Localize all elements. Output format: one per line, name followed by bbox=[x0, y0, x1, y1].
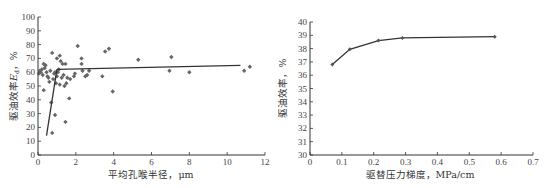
scatter-points bbox=[37, 44, 252, 135]
x-axis-label: 驱替压力梯度，MPa/cm bbox=[366, 169, 475, 180]
y-tick-label: 20 bbox=[26, 122, 36, 132]
y-tick-label: 0 bbox=[31, 150, 36, 160]
line-markers bbox=[330, 35, 496, 67]
data-point-diamond bbox=[103, 49, 107, 53]
data-point-diamond bbox=[41, 88, 45, 92]
y-tick-label: 30 bbox=[26, 109, 36, 119]
y-axis-label: 驱油效率，% bbox=[277, 58, 288, 117]
data-point-diamond bbox=[79, 56, 83, 60]
data-point-diamond bbox=[79, 62, 83, 66]
data-point-diamond bbox=[53, 113, 57, 117]
right-axis-ticks: 303132333435363738394000.10.20.30.40.50.… bbox=[298, 17, 539, 167]
y-tick-label: 90 bbox=[26, 26, 36, 36]
line-marker bbox=[348, 47, 352, 51]
data-point-diamond bbox=[100, 74, 104, 78]
x-tick-label: 0.5 bbox=[464, 157, 476, 167]
y-tick-label: 33 bbox=[298, 110, 308, 120]
y-tick-label: 100 bbox=[22, 12, 36, 22]
y-tick-label: 37 bbox=[298, 57, 308, 67]
y-tick-label: 40 bbox=[298, 17, 308, 27]
data-point-diamond bbox=[58, 53, 62, 57]
line-marker bbox=[493, 35, 497, 39]
data-point-diamond bbox=[169, 55, 173, 59]
y-axis-label: 驱油效率Ed，% bbox=[8, 51, 20, 121]
x-tick-label: 0 bbox=[36, 157, 41, 167]
data-point-diamond bbox=[187, 70, 191, 74]
data-point-diamond bbox=[242, 69, 246, 73]
x-tick-label: 0.7 bbox=[527, 157, 539, 167]
y-tick-label: 10 bbox=[26, 136, 36, 146]
line-marker bbox=[330, 63, 334, 67]
data-point-diamond bbox=[48, 69, 52, 73]
data-point-diamond bbox=[44, 70, 48, 74]
y-tick-label: 39 bbox=[298, 30, 308, 40]
line-marker bbox=[376, 39, 380, 43]
data-point-diamond bbox=[55, 56, 59, 60]
y-tick-label: 35 bbox=[298, 84, 308, 94]
data-point-diamond bbox=[107, 47, 111, 51]
data-point-diamond bbox=[63, 62, 67, 66]
data-point-diamond bbox=[63, 120, 67, 124]
x-tick-label: 4 bbox=[111, 157, 116, 167]
data-point-diamond bbox=[58, 82, 62, 86]
trend-line bbox=[57, 65, 240, 69]
data-point-diamond bbox=[136, 58, 140, 62]
y-tick-label: 36 bbox=[298, 70, 308, 80]
x-tick-label: 0.2 bbox=[368, 157, 379, 167]
x-tick-label: 0.3 bbox=[400, 157, 412, 167]
x-tick-label: 12 bbox=[261, 157, 270, 167]
efficiency-line bbox=[332, 37, 494, 65]
data-point-diamond bbox=[50, 131, 54, 135]
y-tick-label: 38 bbox=[298, 44, 308, 54]
data-point-diamond bbox=[47, 80, 51, 84]
x-tick-label: 10 bbox=[223, 157, 233, 167]
y-tick-label: 60 bbox=[26, 67, 36, 77]
y-tick-label: 31 bbox=[298, 137, 307, 147]
y-tick-label: 34 bbox=[298, 97, 308, 107]
y-tick-label: 70 bbox=[26, 53, 36, 63]
data-point-diamond bbox=[76, 44, 80, 48]
y-tick-label: 50 bbox=[26, 81, 36, 91]
x-tick-label: 0.6 bbox=[496, 157, 508, 167]
y-tick-label: 80 bbox=[26, 40, 36, 50]
data-point-diamond bbox=[67, 96, 71, 100]
data-point-diamond bbox=[50, 51, 54, 55]
y-tick-label: 32 bbox=[298, 123, 307, 133]
x-tick-label: 0.4 bbox=[432, 157, 444, 167]
x-tick-label: 2 bbox=[74, 157, 79, 167]
line-marker bbox=[400, 36, 404, 40]
x-tick-label: 0.1 bbox=[336, 157, 347, 167]
data-point-diamond bbox=[167, 69, 171, 73]
y-tick-label: 30 bbox=[298, 150, 308, 160]
x-axis-label: 平均孔喉半径，μm bbox=[108, 169, 193, 180]
x-tick-label: 6 bbox=[149, 157, 154, 167]
data-point-diamond bbox=[248, 64, 252, 68]
x-tick-label: 8 bbox=[187, 157, 192, 167]
left-axis-ticks: 0102030405060708090100024681012 bbox=[22, 12, 270, 167]
x-tick-label: 0 bbox=[308, 157, 313, 167]
y-tick-label: 40 bbox=[26, 95, 36, 105]
scatter-chart-pore-radius: 0102030405060708090100024681012 平均孔喉半径，μ… bbox=[0, 0, 275, 188]
data-point-diamond bbox=[111, 89, 115, 93]
